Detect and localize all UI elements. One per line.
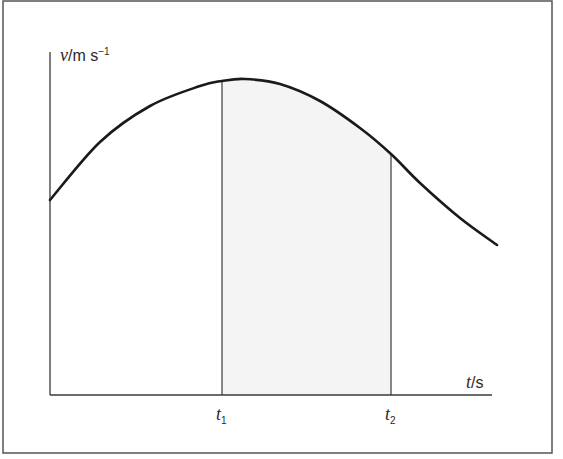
x-axis-label: t/s [466,372,483,393]
y-axis-label: v/m s−1 [60,45,110,66]
tick-t2: t2 [385,404,396,426]
tick-t1: t1 [216,404,227,426]
shaded-area [222,79,391,395]
